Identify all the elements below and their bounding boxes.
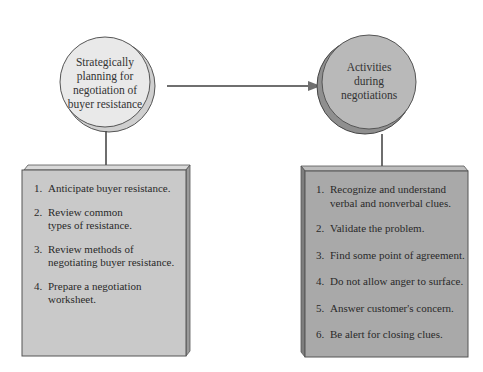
right-title-line: Activities — [322, 60, 416, 74]
left-title-line: planning for — [62, 69, 148, 83]
right-steps-list: 1. Recognize and understand verbal and n… — [316, 183, 468, 342]
right-title-line: negotiations — [322, 88, 416, 102]
list-item: 6. Be alert for closing clues. — [316, 328, 468, 342]
right-node-title: Activities during negotiations — [322, 60, 416, 102]
list-item: 4. Prepare a negotiation worksheet. — [34, 280, 154, 307]
right-title-line: during — [322, 74, 416, 88]
left-node-title: Strategically planning for negotiation o… — [62, 55, 148, 111]
arrow-connector — [167, 81, 321, 91]
list-item: 1. Anticipate buyer resistance. — [34, 182, 184, 196]
list-item: 1. Recognize and understand verbal and n… — [316, 183, 452, 210]
list-item: 4. Do not allow anger to surface. — [316, 275, 468, 289]
list-item: 5. Answer customer's concern. — [316, 302, 468, 316]
list-item: 3. Find some point of agreement. — [316, 249, 468, 263]
list-item: 2. Validate the problem. — [316, 222, 468, 236]
list-item: 2. Review common types of resistance. — [34, 206, 146, 233]
left-title-line: buyer resistance — [62, 97, 148, 111]
left-steps-list: 1. Anticipate buyer resistance. 2. Revie… — [34, 182, 184, 307]
list-item: 3. Review methods of negotiating buyer r… — [34, 243, 184, 270]
left-title-line: negotiation of — [62, 83, 148, 97]
left-title-line: Strategically — [62, 55, 148, 69]
